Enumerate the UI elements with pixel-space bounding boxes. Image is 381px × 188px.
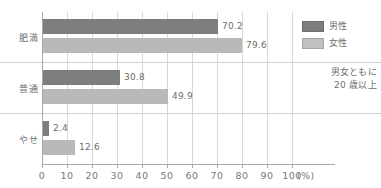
tick-mark-20 [92, 164, 93, 168]
gridline-60 [192, 12, 193, 164]
annotation-line-1: 男女ともに [299, 66, 377, 79]
annotation-line-2: 20 歳以上 [299, 79, 377, 92]
tick-mark-90 [267, 164, 268, 168]
tick-mark-50 [167, 164, 168, 168]
bar-value-female-0: 79.6 [246, 38, 267, 53]
bar-value-male-1: 30.8 [124, 70, 145, 85]
chart-annotation: 男女ともに 20 歳以上 [299, 66, 377, 92]
gridline-70 [217, 12, 218, 164]
group-separator-1 [0, 62, 381, 63]
gridline-90 [267, 12, 268, 164]
tick-mark-10 [67, 164, 68, 168]
bar-female-0 [43, 38, 242, 53]
tick-mark-0 [42, 164, 43, 168]
x-axis-unit-label: (%) [297, 170, 315, 182]
category-label-2: やせ [0, 135, 38, 145]
legend: 男性 女性 [302, 19, 348, 53]
legend-label-female: 女性 [329, 38, 348, 49]
gridline-50 [167, 12, 168, 164]
tick-mark-40 [142, 164, 143, 168]
bar-female-1 [43, 89, 168, 104]
gridline-40 [142, 12, 143, 164]
tick-mark-80 [242, 164, 243, 168]
bar-value-male-2: 2.4 [53, 121, 68, 136]
tick-mark-60 [192, 164, 193, 168]
bar-male-2 [43, 121, 49, 136]
category-label-1: 普通 [0, 84, 38, 94]
gridline-100 [292, 12, 293, 164]
legend-item-female: 女性 [302, 36, 348, 50]
group-separator-2 [0, 113, 381, 114]
tick-mark-100 [292, 164, 293, 168]
legend-swatch-male-icon [302, 21, 324, 32]
bar-male-1 [43, 70, 120, 85]
category-label-0: 肥満 [0, 33, 38, 43]
legend-swatch-female-icon [302, 38, 324, 49]
bar-male-0 [43, 19, 218, 34]
tick-mark-70 [217, 164, 218, 168]
bar-value-male-0: 70.2 [222, 19, 243, 34]
gridline-30 [117, 12, 118, 164]
legend-item-male: 男性 [302, 19, 348, 33]
legend-label-male: 男性 [329, 21, 348, 32]
bar-value-female-2: 12.6 [79, 140, 100, 155]
bar-chart: 肥満 普通 やせ 70.2 79.6 30.8 49.9 2.4 12.6 0 … [0, 0, 381, 188]
bar-value-female-1: 49.9 [172, 89, 193, 104]
bar-female-2 [43, 140, 75, 155]
tick-mark-30 [117, 164, 118, 168]
gridline-80 [242, 12, 243, 164]
